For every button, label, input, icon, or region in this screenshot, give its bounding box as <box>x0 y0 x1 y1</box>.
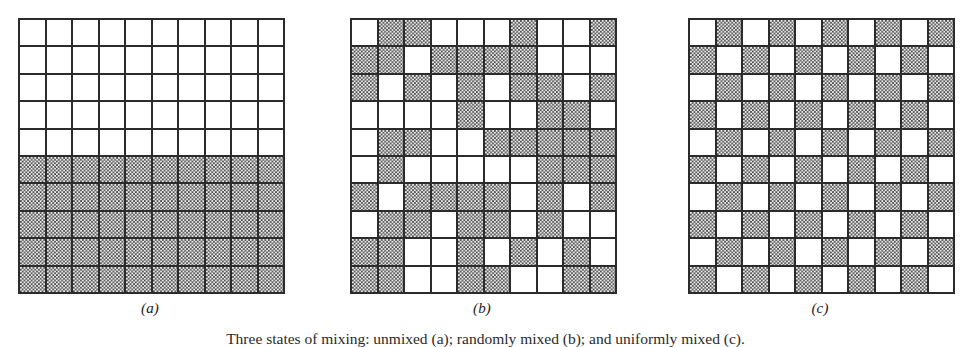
panel-label-c: (c) <box>740 300 900 317</box>
grid-cell <box>126 102 153 129</box>
grid-cell <box>511 184 538 211</box>
grid-cell <box>458 267 485 294</box>
grid-cell <box>47 157 74 184</box>
grid-cell <box>100 75 127 102</box>
grid-cell <box>232 157 259 184</box>
grid-cell <box>259 102 286 129</box>
grid-cell <box>591 130 618 157</box>
grid-cell <box>823 184 850 211</box>
grid-cell <box>823 157 850 184</box>
grid-cell <box>929 157 956 184</box>
grid-cell <box>770 157 797 184</box>
grid-cell <box>564 239 591 266</box>
grid-cell <box>564 47 591 74</box>
grid-cell <box>179 130 206 157</box>
grid-cell <box>432 157 459 184</box>
grid-cell <box>179 20 206 47</box>
grid-cell <box>902 102 929 129</box>
grid-cell <box>405 239 432 266</box>
grid-cell <box>20 267 47 294</box>
grid-cell <box>591 102 618 129</box>
grid-cell <box>405 75 432 102</box>
grid-cell <box>823 212 850 239</box>
grid-cell <box>379 184 406 211</box>
grid-cell <box>352 184 379 211</box>
grid-cell <box>511 20 538 47</box>
grid-cell <box>153 157 180 184</box>
grid-cell <box>405 130 432 157</box>
grid-cell <box>823 267 850 294</box>
grid-cell <box>100 212 127 239</box>
grid-cell <box>743 130 770 157</box>
grid-cell <box>902 184 929 211</box>
grid-cell <box>179 184 206 211</box>
grid-cell <box>743 102 770 129</box>
grid-cell <box>73 184 100 211</box>
grid-cell <box>20 184 47 211</box>
grid-cell <box>47 239 74 266</box>
grid-cell <box>511 75 538 102</box>
grid-cell <box>876 20 903 47</box>
grid-cell <box>929 130 956 157</box>
grid-cell <box>458 157 485 184</box>
grid-cell <box>47 212 74 239</box>
panel-label-a: (a) <box>70 300 230 317</box>
grid-cell <box>405 267 432 294</box>
grid-cell <box>876 184 903 211</box>
grid-cell <box>929 47 956 74</box>
grid-cell <box>796 212 823 239</box>
grid-cell <box>876 75 903 102</box>
grid-cell <box>458 20 485 47</box>
grid-cell <box>100 239 127 266</box>
grid-cell <box>511 130 538 157</box>
grid-cell <box>259 267 286 294</box>
grid-cell <box>823 75 850 102</box>
grid-cell <box>796 184 823 211</box>
grid-cell <box>432 212 459 239</box>
grid-cell <box>232 47 259 74</box>
grid-cell <box>564 267 591 294</box>
grid-cell <box>432 267 459 294</box>
grid-cell <box>690 47 717 74</box>
grid-cell <box>179 267 206 294</box>
grid-cell <box>929 20 956 47</box>
grid-cell <box>538 212 565 239</box>
grid-cell <box>564 212 591 239</box>
grid-cell <box>690 130 717 157</box>
grid-cell <box>100 130 127 157</box>
grid-cell <box>743 75 770 102</box>
grid-cell <box>876 47 903 74</box>
grid-cell <box>153 184 180 211</box>
grid-cell <box>458 75 485 102</box>
grid-cell <box>379 47 406 74</box>
grid-cell <box>823 20 850 47</box>
grid-cell <box>849 212 876 239</box>
grid-cell <box>770 47 797 74</box>
grid-cell <box>126 47 153 74</box>
grid-cell <box>511 212 538 239</box>
grid-cell <box>690 75 717 102</box>
grid-cell <box>352 102 379 129</box>
grid-cell <box>485 75 512 102</box>
grid-cell <box>47 75 74 102</box>
grid-cell <box>73 267 100 294</box>
grid-cell <box>126 157 153 184</box>
grid-cell <box>538 20 565 47</box>
grid-cell <box>770 130 797 157</box>
grid-cell <box>770 184 797 211</box>
grid-cell <box>352 212 379 239</box>
grid-cell <box>153 130 180 157</box>
grid-cell <box>485 212 512 239</box>
grid-cell <box>823 130 850 157</box>
grid-cell <box>432 239 459 266</box>
grid-cell <box>379 212 406 239</box>
grid-cell <box>902 20 929 47</box>
figure-panel-c <box>688 18 955 294</box>
grid-cell <box>690 212 717 239</box>
grid-cell <box>929 184 956 211</box>
grid-cell <box>73 20 100 47</box>
grid-cell <box>485 20 512 47</box>
grid-cell <box>511 267 538 294</box>
grid-cell <box>20 130 47 157</box>
grid-cell <box>206 212 233 239</box>
